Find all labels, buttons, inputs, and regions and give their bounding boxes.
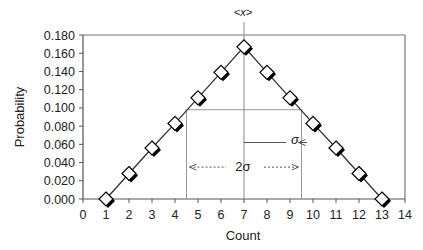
y-tick-label: 0.020 bbox=[44, 174, 75, 188]
y-tick-label: 0.120 bbox=[44, 83, 75, 97]
y-tick-label: 0.160 bbox=[44, 47, 75, 61]
sigma-label: σ bbox=[291, 132, 300, 147]
mean-label: <x> bbox=[234, 6, 253, 18]
x-tick-label: 0 bbox=[80, 208, 87, 222]
x-tick-label: 11 bbox=[330, 208, 343, 222]
y-tick-label: 0.060 bbox=[44, 138, 75, 152]
y-tick-label: 0.100 bbox=[44, 101, 75, 115]
x-tick-label: 3 bbox=[149, 208, 156, 222]
y-tick-label: 0.080 bbox=[44, 120, 75, 134]
x-tick-label: 6 bbox=[218, 208, 225, 222]
y-tick-label: 0.000 bbox=[44, 193, 75, 207]
two-sigma-label: 2σ bbox=[235, 159, 250, 174]
x-tick-label: 1 bbox=[103, 208, 110, 222]
x-tick-label: 7 bbox=[241, 208, 248, 222]
y-tick-label: 0.180 bbox=[44, 29, 75, 43]
x-tick-label: 5 bbox=[195, 208, 202, 222]
x-tick-label: 4 bbox=[172, 208, 179, 222]
x-tick-label: 9 bbox=[287, 208, 294, 222]
chart: 0.0000.0200.0400.0600.0800.1000.1200.140… bbox=[0, 0, 423, 250]
x-tick-label: 10 bbox=[306, 208, 320, 222]
x-axis-label: Count bbox=[226, 228, 261, 243]
x-tick-label: 12 bbox=[352, 208, 366, 222]
y-tick-label: 0.140 bbox=[44, 65, 75, 79]
y-axis-label: Probability bbox=[12, 86, 27, 147]
y-tick-label: 0.040 bbox=[44, 156, 75, 170]
x-tick-label: 14 bbox=[398, 208, 412, 222]
x-tick-label: 2 bbox=[126, 208, 133, 222]
x-tick-label: 13 bbox=[375, 208, 389, 222]
data-series bbox=[99, 40, 391, 208]
axes: 0.0000.0200.0400.0600.0800.1000.1200.140… bbox=[44, 29, 412, 223]
x-tick-label: 8 bbox=[264, 208, 271, 222]
